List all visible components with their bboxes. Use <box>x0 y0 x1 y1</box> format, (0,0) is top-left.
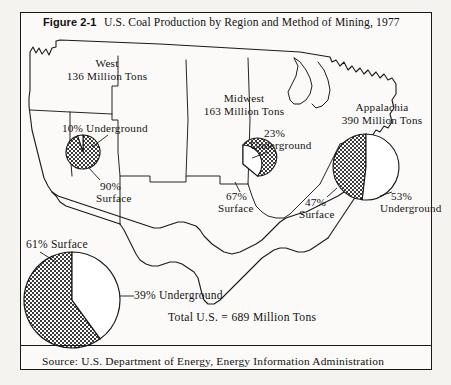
west-region-name: West <box>96 57 119 70</box>
west-region-tons: 136 Million Tons <box>67 70 148 83</box>
midwest-underground-label: Underground <box>250 139 312 152</box>
figure-title: U.S. Coal Production by Region and Metho… <box>104 16 400 29</box>
figure-number: Figure 2-1 <box>43 16 97 28</box>
appalachia-region-name: Appalachia <box>356 101 409 114</box>
total-surface-label: 61% Surface <box>26 238 88 251</box>
total-underground-label: 39% Underground <box>134 289 223 302</box>
source-credit: Source: U.S. Department of Energy, Energ… <box>42 355 384 367</box>
total-us-line: Total U.S. = 689 Million Tons <box>168 311 316 324</box>
source-divider <box>21 345 431 346</box>
appalachia-underground-label: Underground <box>380 202 442 215</box>
midwest-surface-label: Surface <box>218 202 254 215</box>
appalachia-surface-label: Surface <box>299 208 335 221</box>
midwest-region-name: Midwest <box>224 92 265 105</box>
west-surface-label: Surface <box>96 192 132 205</box>
appalachia-region-tons: 390 Million Tons <box>342 114 423 127</box>
midwest-region-tons: 163 Million Tons <box>204 105 285 118</box>
west-underground-label: 10% Underground <box>62 122 148 135</box>
